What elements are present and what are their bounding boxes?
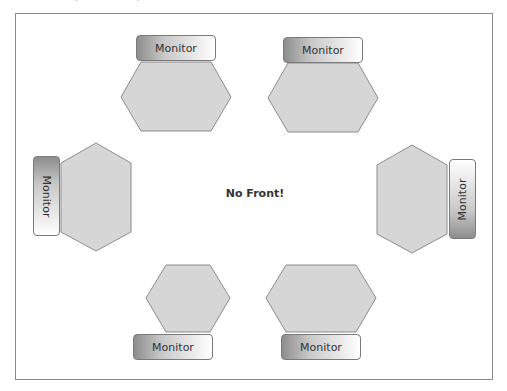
no-front-label: No Front!	[200, 187, 310, 200]
table-left	[61, 143, 131, 251]
monitor-bottom-right: Monitor	[281, 334, 361, 360]
monitor-right: Monitor	[449, 159, 476, 239]
table-top-right	[268, 63, 378, 132]
monitor-label: Monitor	[456, 178, 469, 220]
monitor-left: Monitor	[33, 156, 60, 236]
monitor-label: Monitor	[302, 44, 344, 57]
monitor-label: Monitor	[152, 341, 194, 354]
monitor-top-right: Monitor	[283, 37, 363, 63]
monitor-label: Monitor	[300, 341, 342, 354]
table-top-left	[121, 62, 231, 131]
table-bottom-left	[146, 265, 230, 332]
table-bottom-right	[266, 265, 376, 332]
monitor-bottom-left: Monitor	[133, 334, 213, 360]
monitor-top-left: Monitor	[136, 35, 216, 61]
monitor-label: Monitor	[155, 42, 197, 55]
table-right	[377, 145, 447, 253]
monitor-label: Monitor	[40, 175, 53, 217]
